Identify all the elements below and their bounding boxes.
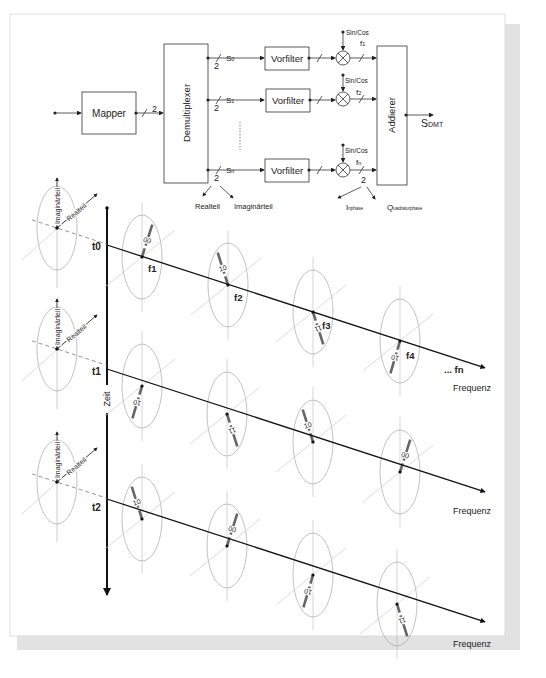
freq-label-fn: ... fn <box>444 364 464 375</box>
time-label-t1: t1 <box>92 366 101 377</box>
realteil-label: Realteil <box>195 202 220 211</box>
signal-label: Sn <box>226 166 234 175</box>
signal-label: S0 <box>226 54 234 63</box>
time-label-t0: t0 <box>92 241 101 252</box>
freq-label-f2: f2 <box>234 292 242 303</box>
figure-canvas: Mapper 2 Demultiplexer Addierer SDMT 2 S… <box>0 0 546 678</box>
signal-label: S1 <box>226 96 234 105</box>
time-label-t2: t2 <box>92 502 101 513</box>
time-axis-label: Zeit <box>102 391 112 407</box>
imag-axis-label: Imaginärteil <box>54 187 62 224</box>
adder-label: Addierer <box>386 97 397 133</box>
freq-label-f1: f1 <box>148 263 157 274</box>
osc-label: Sin/Cos <box>345 147 369 154</box>
frequency-axis-label-row2: Frequenz <box>453 639 492 649</box>
freq-label: f1 <box>360 39 365 48</box>
demux-label: Demultiplexer <box>181 84 192 142</box>
frequency-axis-label-row0: Frequenz <box>453 383 492 393</box>
page-sheet <box>10 14 520 650</box>
mapper-bus-width: 2 <box>152 104 157 114</box>
vorfilter-label: Vorfilter <box>271 53 303 64</box>
freq-label: f2 <box>356 88 361 97</box>
vorfilter-label: Vorfilter <box>272 95 304 106</box>
freq-label-f4: f4 <box>406 350 415 361</box>
osc-label: Sin/Cos <box>346 29 370 36</box>
frequency-axis-label-row1: Frequenz <box>453 506 492 516</box>
osc-label: Sin/Cos <box>345 77 369 84</box>
imaginaerteil-label: Imaginärteil <box>234 202 273 211</box>
mapper-label: Mapper <box>92 108 127 119</box>
freq-label-f3: f3 <box>322 320 330 331</box>
imag-axis-label: Imaginärteil <box>54 441 62 478</box>
mixer-bus-width: 2 <box>361 175 366 185</box>
imag-axis-label: Imaginärteil <box>54 308 62 345</box>
bus-width: 2 <box>214 103 219 113</box>
bus-width: 2 <box>214 61 219 71</box>
freq-label: fn <box>356 158 361 167</box>
bus-width: 2 <box>214 173 219 183</box>
vorfilter-label: Vorfilter <box>271 165 303 176</box>
